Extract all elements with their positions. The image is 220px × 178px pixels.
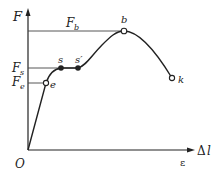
svg-text:e: e (20, 82, 25, 91)
point-k-label: k (178, 74, 184, 85)
fb-label: F b (65, 16, 79, 32)
point-b (121, 28, 127, 34)
point-b-label: b (121, 14, 127, 25)
point-k (169, 75, 174, 80)
fe-label: F e (11, 75, 25, 91)
point-e (43, 80, 48, 85)
point-e-label: e (50, 79, 56, 90)
origin-label: O (15, 157, 25, 171)
y-axis-label: F (12, 9, 23, 24)
force-elongation-curve (28, 31, 172, 150)
point-s-label: s (58, 54, 63, 65)
svg-text:b: b (74, 23, 79, 32)
x-axis-arrow-icon (187, 148, 195, 153)
point-s-prime (75, 65, 81, 71)
force-elongation-diagram: F O Δ l ε F b F s F e e s s′ b k (0, 0, 220, 178)
point-s (58, 65, 64, 71)
x-axis-label-epsilon: ε (180, 157, 185, 168)
x-axis-label-l: l (207, 144, 211, 158)
point-s-prime-label: s′ (75, 54, 83, 65)
y-axis-arrow-icon (26, 8, 31, 16)
x-axis-label-delta: Δ (197, 144, 206, 158)
svg-text:s: s (20, 68, 24, 77)
